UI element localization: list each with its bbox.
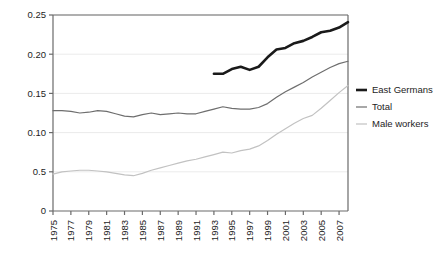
x-tick-label: 2003	[298, 220, 309, 241]
x-tick-label: 1975	[48, 220, 59, 241]
y-tick-label: 0.25	[28, 9, 47, 20]
x-tick-label: 1985	[137, 220, 148, 241]
chart-container: 00.50.100.150.200.25 1975197719791981198…	[0, 0, 444, 262]
x-tick-label: 1989	[173, 220, 184, 241]
x-tick-label: 1981	[101, 220, 112, 241]
x-tick-label: 1979	[83, 220, 94, 241]
y-tick-label: 0.5	[33, 166, 46, 177]
legend-label-total: Total	[372, 101, 392, 112]
x-tick-label: 1995	[226, 220, 237, 241]
y-tick-label: 0.15	[28, 88, 47, 99]
x-tick-label: 1987	[155, 220, 166, 241]
legend-label-east-germans: East Germans	[372, 84, 433, 95]
x-tick-label: 1993	[209, 220, 220, 241]
y-tick-label: 0.10	[28, 127, 47, 138]
x-tick-label: 1999	[262, 220, 273, 241]
x-tick-label: 2001	[280, 220, 291, 241]
x-tick-label: 2007	[334, 220, 345, 241]
legend-label-male-workers: Male workers	[372, 118, 429, 129]
y-tick-label: 0.20	[28, 49, 47, 60]
line-chart: 00.50.100.150.200.25 1975197719791981198…	[0, 0, 444, 262]
x-tick-label: 1977	[65, 220, 76, 241]
x-axis-tick-labels: 1975197719791981198319851987198919911993…	[48, 220, 345, 241]
y-tick-label: 0	[41, 205, 46, 216]
x-tick-label: 1991	[191, 220, 202, 241]
x-tick-label: 1983	[119, 220, 130, 241]
x-tick-label: 1997	[244, 220, 255, 241]
x-tick-label: 2005	[316, 220, 327, 241]
